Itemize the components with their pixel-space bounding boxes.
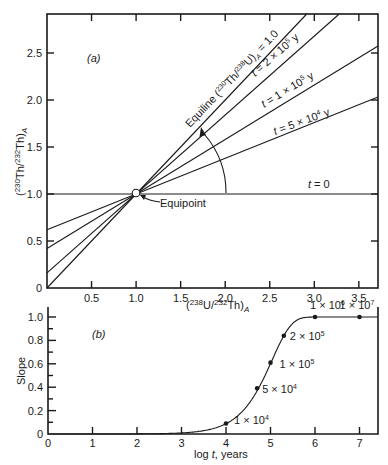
x-tick-label: 7 (356, 437, 362, 449)
panel-b-xlabel: log t, years (194, 448, 248, 460)
equiline-label: Equiline (230Th/238U)A = 1.0 (183, 27, 282, 130)
x-tick-label: 0 (45, 437, 51, 449)
data-point-label: 1 × 105 (280, 358, 315, 370)
x-tick-label: 2.5 (262, 292, 277, 304)
panel-b-plot: 0123456700.20.40.60.81.0 1 × 1045 × 1041… (15, 299, 378, 460)
y-tick-label: 0 (37, 428, 43, 440)
data-point-label: 2 × 105 (290, 330, 325, 342)
data-point-label: 5 × 104 (262, 383, 297, 395)
panel-b-axes (48, 307, 378, 434)
data-point-label: 1 × 104 (234, 414, 269, 426)
x-tick-label: 3 (178, 437, 184, 449)
data-point (255, 386, 260, 391)
x-tick-label: 5 (267, 437, 273, 449)
equipoint-pointer (143, 197, 160, 202)
y-tick-label: 0.8 (28, 334, 43, 346)
y-tick-label: 0.5 (27, 235, 42, 247)
data-point (268, 360, 273, 365)
t-0-label: t = 0 (308, 178, 330, 190)
y-tick-label: 0.4 (28, 381, 43, 393)
panel-a-xlabel: (238U/232Th)A (186, 298, 249, 314)
y-tick-label: 1.5 (27, 141, 42, 153)
equipoint-marker (132, 189, 140, 197)
data-point-label: 1 × 107 (340, 299, 375, 311)
x-tick-label: 6 (312, 437, 318, 449)
y-tick-label: 0.6 (28, 358, 43, 370)
y-tick-label: 2.0 (27, 94, 42, 106)
figure: 0.51.01.52.02.53.03.500.51.01.52.02.5 Eq… (0, 0, 388, 465)
equipoint-label: Equipoint (160, 197, 206, 209)
panel-a-label: (a) (87, 52, 101, 64)
isochron-line (47, 46, 378, 249)
data-point (282, 333, 287, 338)
x-tick-label: 1 (89, 437, 95, 449)
x-tick-label: 0.5 (84, 292, 99, 304)
panel-a-tick-labels: 0.51.01.52.02.53.03.500.51.01.52.02.5 (27, 47, 367, 304)
y-tick-label: 2.5 (27, 47, 42, 59)
data-point (357, 315, 362, 320)
y-tick-label: 0.2 (28, 405, 43, 417)
y-tick-label: 1.0 (28, 311, 43, 323)
panel-a-plot: 0.51.01.52.02.53.03.500.51.01.52.02.5 Eq… (13, 14, 378, 314)
data-point (313, 315, 318, 320)
x-tick-label: 1.0 (128, 292, 143, 304)
rotation-arc (205, 135, 226, 193)
data-point (224, 421, 229, 426)
x-tick-label: 2 (134, 437, 140, 449)
panel-b-label: (b) (92, 328, 106, 340)
panel-b-ylabel: Slope (15, 357, 27, 385)
panel-a-ylabel: (230Th/232Th)A (13, 128, 29, 196)
t-5e4-label: t = 5 × 104 y (272, 105, 332, 137)
y-tick-label: 0 (36, 282, 42, 294)
y-tick-label: 1.0 (27, 188, 42, 200)
